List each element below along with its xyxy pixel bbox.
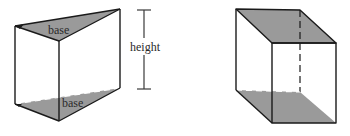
prisms-diagram: base base height — [0, 0, 350, 136]
height-dimension: height — [130, 10, 161, 89]
cube-top-face — [236, 9, 336, 43]
top-base-label: base — [48, 23, 69, 37]
bottom-base-label: base — [62, 96, 83, 110]
cube-bottom-face — [236, 90, 336, 123]
height-label: height — [130, 40, 161, 54]
rectangular-prism — [236, 9, 336, 123]
triangular-prism: base base — [15, 9, 120, 121]
